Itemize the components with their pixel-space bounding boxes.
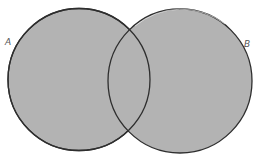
- label-b: B: [244, 39, 250, 49]
- venn-diagram: A B: [0, 0, 258, 157]
- label-a: A: [4, 37, 11, 47]
